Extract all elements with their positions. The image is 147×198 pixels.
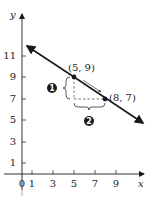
rise-brace xyxy=(63,77,70,99)
y-tick-label: 7 xyxy=(10,93,16,104)
x-tick-label: 5 xyxy=(71,178,77,189)
y-tick-label: 9 xyxy=(10,71,16,82)
x-tick-label: 3 xyxy=(50,178,56,189)
y-axis-label: y xyxy=(9,9,16,20)
svg-text:2: 2 xyxy=(86,117,92,126)
chart-canvas: 1 3 5 7 9 11 0 1 3 5 7 9 y x (5, 9) (8, … xyxy=(0,0,147,198)
y-tick-label: 11 xyxy=(3,50,16,61)
x-tick-label: 7 xyxy=(92,178,98,189)
x-tick-label: 9 xyxy=(113,178,119,189)
y-tick-label: 1 xyxy=(10,157,16,168)
step-1-badge: 1 xyxy=(47,83,57,93)
point-label-8-7: (8, 7) xyxy=(109,92,136,103)
point-label-5-9: (5, 9) xyxy=(68,62,95,73)
y-tick-label: 5 xyxy=(10,114,16,125)
step-2-badge: 2 xyxy=(84,116,94,126)
point-8-7 xyxy=(103,97,108,102)
y-tick-label: 3 xyxy=(10,136,16,147)
origin-label: 0 xyxy=(19,178,25,189)
run-brace xyxy=(74,103,105,110)
svg-text:1: 1 xyxy=(49,84,55,93)
direction-arrow xyxy=(83,80,101,92)
x-tick-label: 1 xyxy=(29,178,35,189)
x-ticks xyxy=(32,170,116,174)
line-series xyxy=(27,46,143,123)
point-5-9 xyxy=(72,75,77,80)
y-ticks xyxy=(22,56,26,163)
x-axis-label: x xyxy=(138,178,144,189)
